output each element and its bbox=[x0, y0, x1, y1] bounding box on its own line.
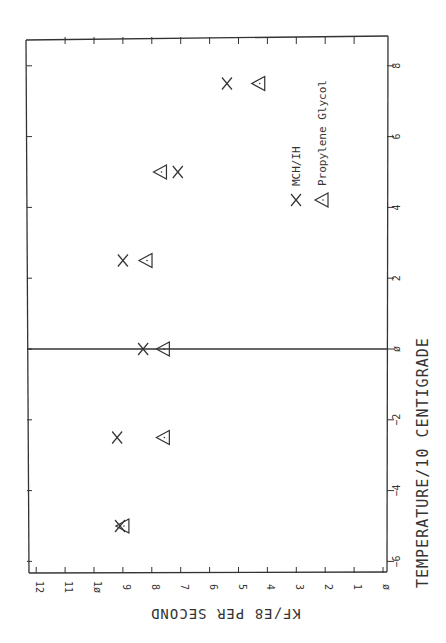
y-tick-label: 12 bbox=[34, 581, 45, 593]
y-tick-label: ø bbox=[381, 584, 392, 590]
x-axis-title: TEMPERATURE/10 CENTIGRADE bbox=[414, 337, 432, 588]
triangle-marker bbox=[139, 254, 152, 268]
triangle-marker-dot bbox=[322, 199, 324, 201]
triangle-marker-dot bbox=[146, 260, 148, 262]
triangle-marker bbox=[156, 431, 169, 445]
legend-label-propylene-glycol: Propylene Glycol bbox=[316, 80, 329, 186]
x-tick-label: 6 bbox=[391, 134, 402, 140]
y-tick-label: 6 bbox=[208, 584, 219, 590]
x-tick-label: −4 bbox=[391, 485, 402, 497]
triangle-marker-dot bbox=[161, 171, 163, 173]
frame-top bbox=[26, 36, 388, 40]
x-tick-label: −6 bbox=[391, 555, 402, 567]
triangle-marker-dot bbox=[259, 83, 261, 85]
frame-right bbox=[387, 36, 388, 572]
y-tick-label: 7 bbox=[179, 584, 190, 590]
x-tick-label: ø bbox=[391, 346, 402, 352]
triangle-marker-dot bbox=[164, 348, 166, 350]
triangle-marker bbox=[252, 77, 265, 91]
triangle-marker bbox=[116, 519, 129, 533]
triangle-marker bbox=[153, 165, 166, 179]
x-tick-label: 2 bbox=[391, 275, 402, 281]
x-tick-label: −2 bbox=[391, 414, 402, 426]
y-tick-label: 3 bbox=[294, 584, 305, 590]
rotated-scatter-chart: ø1234567891ø1112−6−4−2ø2468MCH/IHPropyle… bbox=[0, 0, 446, 643]
x-tick-label: 4 bbox=[391, 204, 402, 210]
y-tick-label: 8 bbox=[150, 584, 161, 590]
y-axis-title: KF/E8 PER SECOND bbox=[150, 606, 301, 622]
y-tick-label: 9 bbox=[121, 584, 132, 590]
y-tick-label: 1 bbox=[352, 584, 363, 590]
legend-label-mch: MCH/IH bbox=[290, 146, 303, 186]
triangle-marker-dot bbox=[164, 437, 166, 439]
y-tick-label: 4 bbox=[265, 584, 276, 590]
plot-area: ø1234567891ø1112−6−4−2ø2468MCH/IHPropyle… bbox=[0, 0, 446, 643]
triangle-marker-dot bbox=[123, 525, 125, 527]
frame-left bbox=[26, 40, 29, 573]
frame-bottom bbox=[29, 572, 387, 573]
y-tick-label: 11 bbox=[63, 581, 74, 593]
y-tick-label: 1ø bbox=[92, 581, 103, 593]
x-tick-label: 8 bbox=[391, 63, 402, 69]
triangle-marker bbox=[315, 193, 328, 207]
y-tick-label: 5 bbox=[237, 584, 248, 590]
y-tick-label: 2 bbox=[323, 584, 334, 590]
